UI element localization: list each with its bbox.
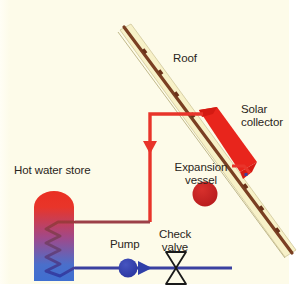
check-valve-upper-triangle [166,252,186,268]
label-solar-collector-line2: collector [241,116,283,129]
pump-body [119,259,138,278]
label-expansion-vessel-line2: vessel [164,174,238,187]
flow-direction-arrow-icon [143,141,157,154]
label-expansion-vessel: Expansion vessel [164,161,238,187]
label-expansion-vessel-line1: Expansion [164,161,238,174]
check-valve-lower-triangle [166,268,186,284]
solar-water-heating-diagram: Roof Solar collector Hot water store Exp… [0,0,306,296]
label-hot-water-store: Hot water store [14,164,90,177]
expansion-vessel [193,182,218,269]
label-solar-collector: Solar collector [241,103,283,129]
label-roof: Roof [173,52,197,65]
label-check-valve-line1: Check [152,228,198,241]
hot-water-store [34,191,74,281]
pump [119,259,153,278]
label-pump: Pump [110,238,140,251]
label-solar-collector-line1: Solar [241,103,283,116]
roof-underline [118,32,285,258]
label-check-valve-line2: valve [152,241,198,254]
pump-flow-arrow-icon [138,261,152,275]
label-check-valve: Check valve [152,228,198,254]
